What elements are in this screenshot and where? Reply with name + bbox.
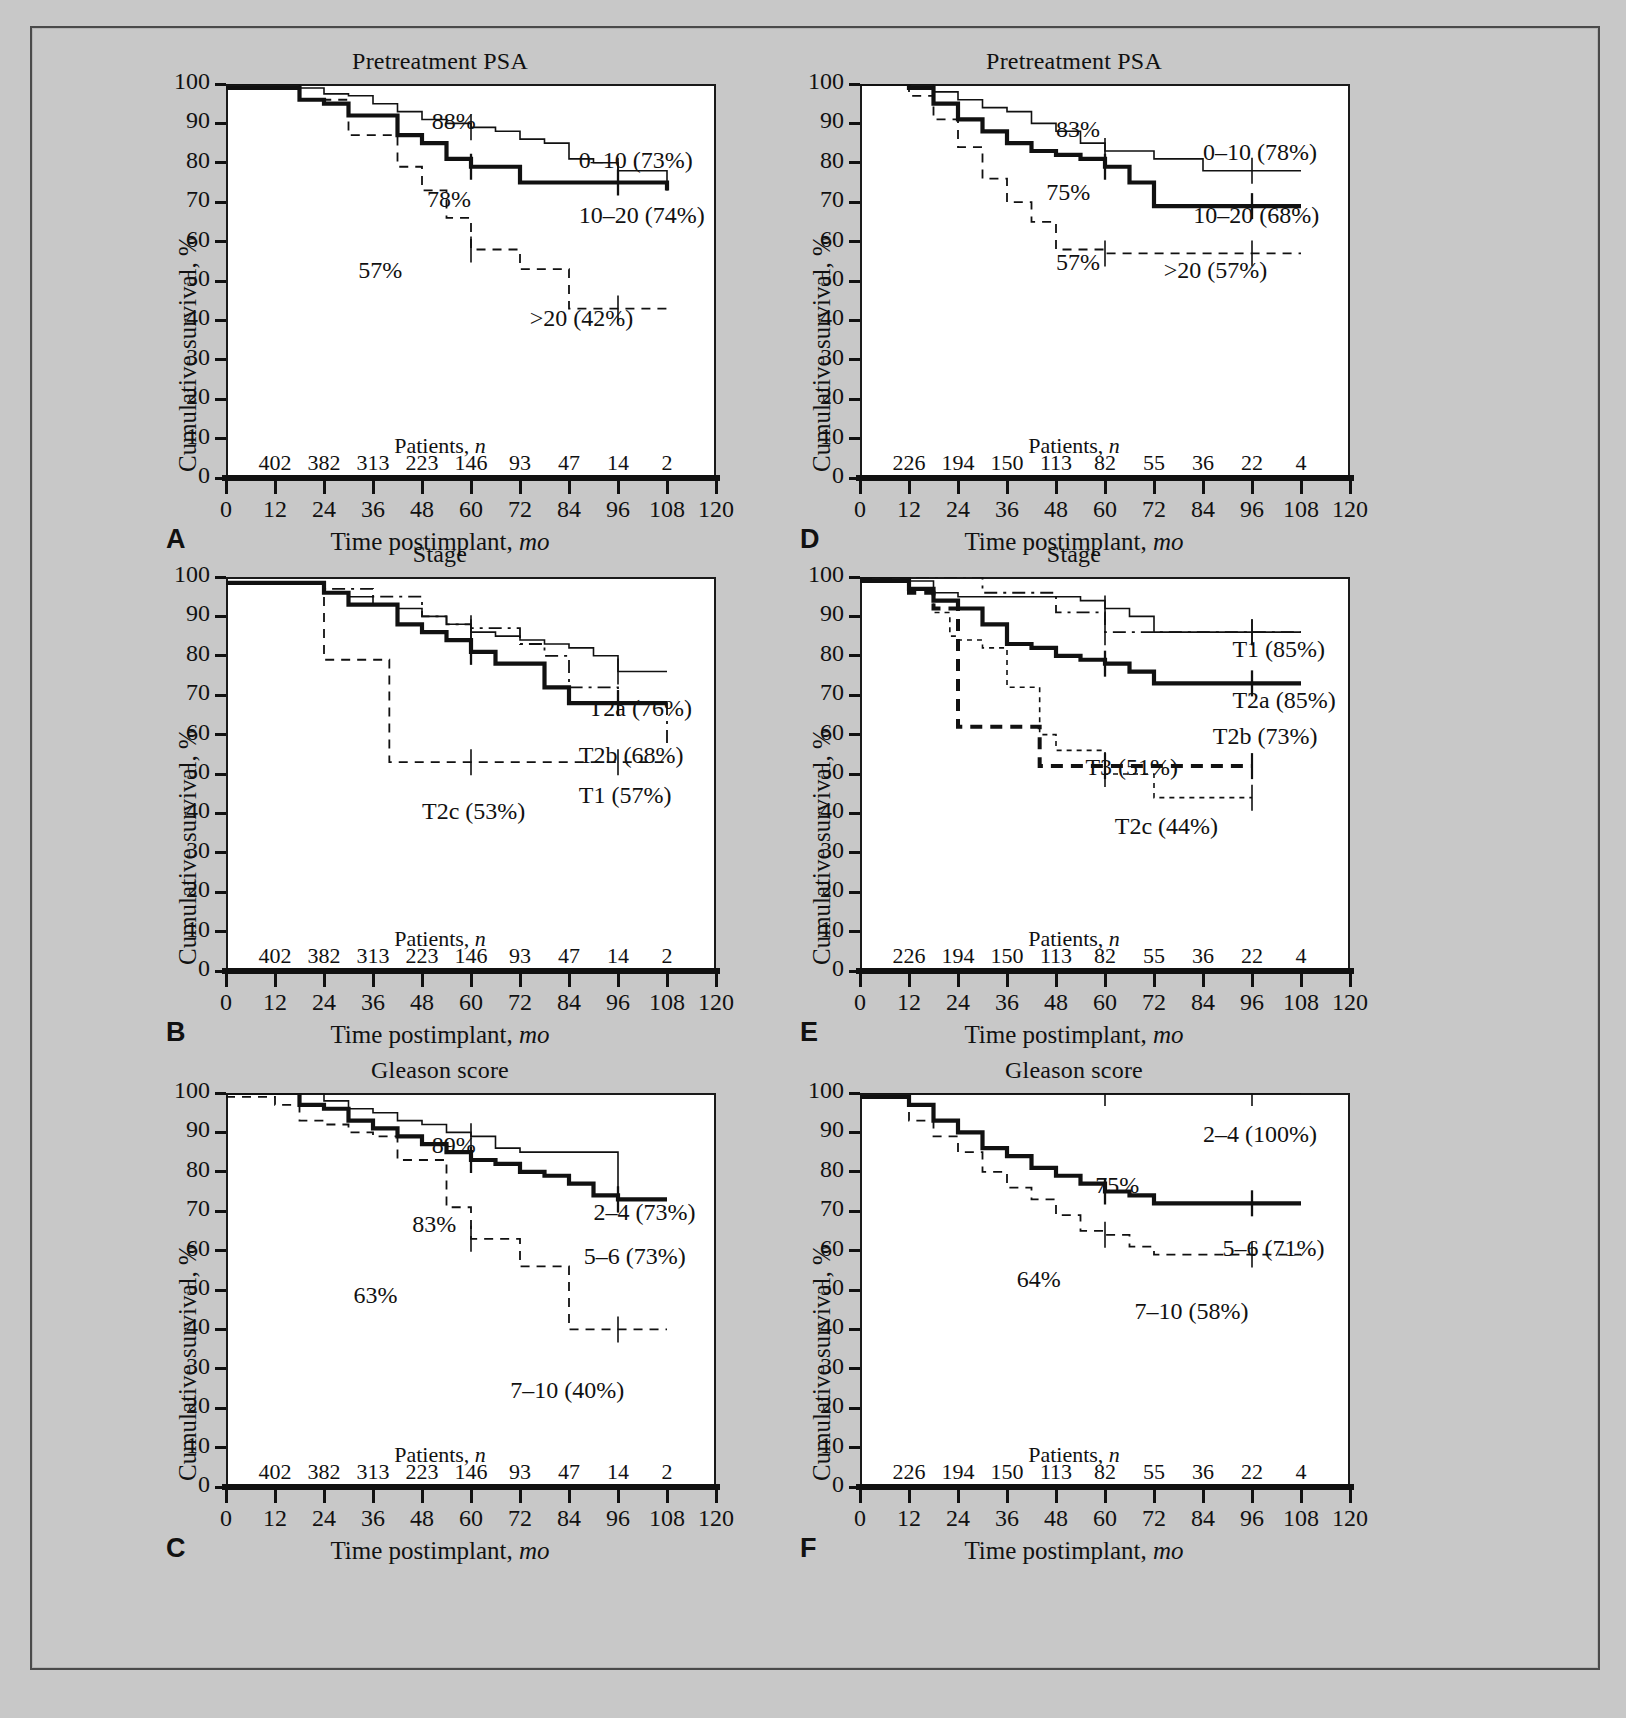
curve-label-d-2: >20 (57%) [1164,257,1268,284]
figure-root: Pretreatment PSACumulative survival, %01… [0,0,1626,1718]
figure-plate: Pretreatment PSACumulative survival, %01… [30,26,1600,1670]
curve-label-c-1: 5–6 (73%) [584,1243,686,1270]
percent-label-d-1: 75% [1046,179,1090,206]
panel-a: Pretreatment PSACumulative survival, %01… [160,48,720,518]
curve-label-b-1: T2b (68%) [579,742,684,769]
curve-label-f-1: 5–6 (71%) [1223,1235,1325,1262]
survival-curves-e [794,541,1354,1011]
percent-label-f-1: 64% [1017,1266,1061,1293]
curve-T2c [226,583,667,762]
x-axis-label: Time postimplant, mo [794,1537,1354,1565]
panel-b: StageCumulative survival, %0102030405060… [160,541,720,1011]
percent-label-c-1: 83% [412,1211,456,1238]
panel-letter-c: C [166,1533,186,1564]
curve-label-e-1: T2a (85%) [1232,687,1335,714]
x-axis-label: Time postimplant, mo [794,1021,1354,1049]
curve-label-e-4: T2c (44%) [1115,813,1218,840]
percent-label-a-1: 78% [427,186,471,213]
curve-label-e-3: T3 (51%) [1085,754,1178,781]
panel-letter-b: B [166,1017,186,1048]
percent-label-a-0: 88% [432,108,476,135]
curve-label-e-2: T2b (73%) [1213,723,1318,750]
survival-curves-b [160,541,720,1011]
panel-letter-f: F [800,1533,817,1564]
percent-label-d-0: 83% [1056,116,1100,143]
panel-d: Pretreatment PSACumulative survival, %01… [794,48,1354,518]
curve-label-f-0: 2–4 (100%) [1203,1121,1317,1148]
curve-label-f-2: 7–10 (58%) [1134,1298,1248,1325]
curve-label-a-1: 10–20 (74%) [579,202,705,229]
curve-label-e-0: T1 (85%) [1232,636,1325,663]
percent-label-c-0: 89% [432,1132,476,1159]
curve-label-b-0: T2a (76%) [589,695,692,722]
survival-curves-c [160,1057,720,1527]
curve-label-a-0: 0–10 (73%) [579,147,693,174]
curve-T2a [860,577,1301,632]
percent-label-a-2: 57% [358,257,402,284]
percent-label-f-0: 75% [1095,1172,1139,1199]
x-axis-label: Time postimplant, mo [160,1537,720,1565]
curve-T2a [226,583,667,672]
curve-56 [860,1097,1301,1203]
curve-label-b-2: T1 (57%) [579,782,672,809]
curve-010 [226,84,667,190]
x-axis-label: Time postimplant, mo [160,1021,720,1049]
curve-label-a-2: >20 (42%) [530,305,634,332]
curve-T1 [860,577,1301,632]
panel-c: Gleason scoreCumulative survival, %01020… [160,1057,720,1527]
curve-1020 [226,88,667,190]
panel-letter-e: E [800,1017,818,1048]
curve-label-d-0: 0–10 (78%) [1203,139,1317,166]
percent-label-c-2: 63% [353,1282,397,1309]
curve-label-c-0: 2–4 (73%) [594,1199,696,1226]
curve-label-b-3: T2c (53%) [422,798,525,825]
percent-label-d-2: 57% [1056,249,1100,276]
curve-label-c-2: 7–10 (40%) [510,1377,624,1404]
curve-T2b [226,583,667,703]
panel-e: StageCumulative survival, %0102030405060… [794,541,1354,1011]
curve-label-d-1: 10–20 (68%) [1193,202,1319,229]
panel-f: Gleason scoreCumulative survival, %01020… [794,1057,1354,1527]
